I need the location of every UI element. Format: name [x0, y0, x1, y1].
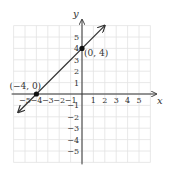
y-tick-label: −5: [67, 147, 79, 156]
x-axis-label: x: [157, 95, 163, 106]
x-tick-label: 4: [125, 96, 130, 105]
y-tick-label: −1: [67, 101, 79, 110]
axes: [12, 20, 157, 165]
y-tick-label: 3: [74, 56, 79, 65]
y-tick-label: −3: [67, 124, 79, 133]
x-tick-label: 5: [136, 96, 141, 105]
y-tick-label: −4: [67, 136, 79, 145]
point-label: (−4, 0): [9, 81, 41, 91]
x-tick-label: −3: [42, 96, 54, 105]
data-point: [34, 91, 39, 96]
x-tick-label: 3: [114, 96, 119, 105]
y-axis-label: y: [72, 8, 79, 19]
coordinate-plane: −5−4−3−2−112345−5−4−3−2−112345 (−4, 0)(0…: [0, 0, 170, 182]
y-tick-label: 5: [74, 33, 79, 42]
x-tick-label: 1: [91, 96, 96, 105]
x-tick-label: 2: [102, 96, 107, 105]
y-tick-label: 2: [74, 67, 79, 76]
y-tick-label: −2: [67, 113, 79, 122]
point-label: (0, 4): [84, 48, 108, 58]
y-tick-label: 1: [74, 79, 79, 88]
x-tick-label: −2: [53, 96, 65, 105]
